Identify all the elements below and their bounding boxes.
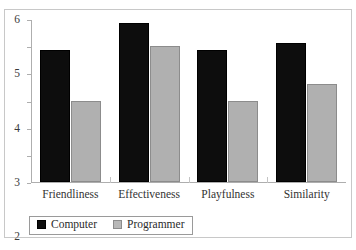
category-label-friendliness: Friendliness (42, 189, 98, 201)
legend-label: Programmer (127, 219, 184, 231)
bar-programmer-playfulness (228, 101, 258, 183)
chart-figure: 0123456 FriendlinessEffectivenessPlayful… (0, 0, 356, 250)
chart-legend: Computer Programmer (29, 216, 193, 235)
legend-item-computer: Computer (37, 219, 97, 231)
y-tick-label: 5 (14, 69, 20, 81)
y-axis-line (31, 20, 32, 183)
legend-swatch-icon (37, 220, 46, 229)
y-tick-mark: 3 (27, 102, 31, 103)
bar-computer-effectiveness (119, 23, 149, 182)
y-tick-label: 3 (14, 177, 20, 189)
bar-computer-friendliness (40, 50, 70, 182)
category-separator (189, 177, 190, 183)
legend-label: Computer (51, 219, 97, 231)
y-tick-label: 4 (14, 123, 20, 135)
bar-programmer-similarity (307, 84, 337, 182)
category-separator (110, 177, 111, 183)
y-tick-mark: 5 (27, 47, 31, 48)
category-label-similarity: Similarity (284, 189, 330, 201)
category-label-playfulness: Playfulness (201, 189, 254, 201)
y-tick-label: 2 (14, 232, 20, 244)
bar-programmer-effectiveness (150, 46, 180, 182)
y-tick-mark: 1 (27, 156, 31, 157)
bar-programmer-friendliness (71, 101, 101, 183)
y-tick-mark: 4 (27, 74, 31, 75)
y-tick-label: 6 (14, 14, 20, 26)
y-tick-mark: 6 (27, 20, 31, 21)
y-tick-mark: 0 (27, 183, 31, 184)
bar-computer-playfulness (197, 50, 227, 182)
plot-area: 0123456 (31, 20, 346, 183)
bar-computer-similarity (276, 43, 306, 182)
legend-swatch-icon (113, 220, 122, 229)
category-separator (267, 177, 268, 183)
legend-item-programmer: Programmer (113, 219, 184, 231)
y-tick-mark: 2 (27, 129, 31, 130)
category-label-effectiveness: Effectiveness (118, 189, 180, 201)
